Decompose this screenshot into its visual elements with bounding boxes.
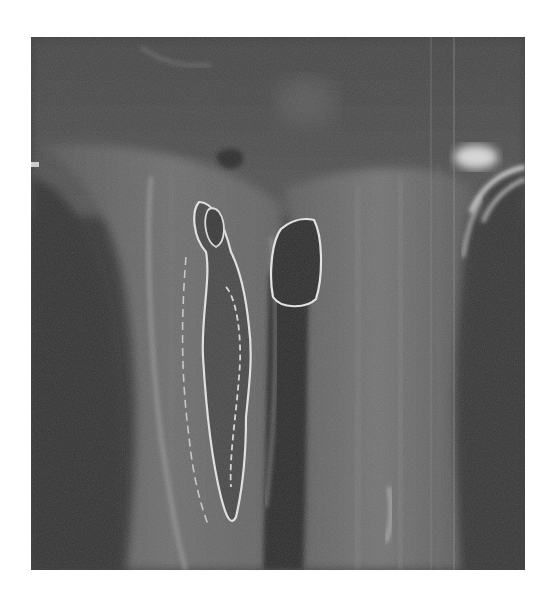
medical-scan-image	[31, 37, 525, 570]
page	[0, 0, 551, 591]
noise-texture	[31, 37, 525, 570]
scan-svg	[31, 37, 525, 570]
